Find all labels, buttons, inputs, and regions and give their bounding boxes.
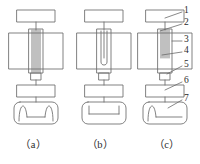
panel-a-base-hooks <box>19 106 53 121</box>
panel-a <box>9 10 63 124</box>
panel-c-base-hook <box>148 106 182 121</box>
panel-a-coil <box>32 30 40 72</box>
caption-panel-a: （a） <box>0 136 67 151</box>
panel-b-loop <box>101 31 107 65</box>
callout-label-5: 5 <box>184 59 189 69</box>
callout-label-3: 3 <box>184 34 189 44</box>
caption-panel-b: （b） <box>67 136 134 151</box>
panel-captions: （a） （b） （c） <box>0 133 200 153</box>
panel-b <box>77 10 131 124</box>
panel-b-base-ticks <box>89 106 119 114</box>
callout-leaders <box>160 12 182 108</box>
callout-label-2: 2 <box>184 17 189 27</box>
callout-label-4: 4 <box>184 45 189 55</box>
callout-label-6: 6 <box>184 75 189 85</box>
caption-panel-c: （c） <box>133 136 200 151</box>
callout-label-7: 7 <box>184 93 189 103</box>
callout-label-1: 1 <box>184 5 189 15</box>
figure-diagram: 1 2 3 4 5 6 7 （a） （b） （c） <box>0 0 200 164</box>
